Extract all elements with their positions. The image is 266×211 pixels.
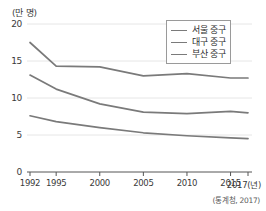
legend-line-icon: [171, 30, 187, 31]
y-tick-label: 10: [6, 93, 22, 103]
legend-label: 대구 중구: [192, 36, 225, 48]
x-tick-label: 2017(년): [227, 178, 261, 190]
y-tick-label: 5: [6, 130, 22, 140]
legend-label: 서울 중구: [192, 24, 225, 36]
y-tick-label: 0: [6, 167, 22, 177]
x-tick-label: 2005: [133, 178, 153, 188]
y-tick-label: 15: [6, 56, 22, 66]
legend-item: 대구 중구: [171, 36, 225, 48]
source-note: (통계청, 2017): [213, 194, 260, 205]
legend-line-icon: [171, 42, 187, 43]
legend-label: 부산 중구: [192, 48, 225, 60]
chart-legend: 서울 중구대구 중구부산 중구: [166, 20, 231, 64]
x-tick-marks-group: [30, 172, 248, 176]
y-tick-label: 20: [6, 19, 22, 29]
population-line-chart-figure: (만 명) 05101520 1992199520002005201020152…: [0, 0, 266, 211]
x-tick-label: 1992: [20, 178, 40, 188]
legend-line-icon: [171, 54, 187, 55]
x-tick-label: 2010: [177, 178, 197, 188]
series-line-2: [30, 75, 248, 113]
legend-item: 부산 중구: [171, 48, 225, 60]
legend-item: 서울 중구: [171, 24, 225, 36]
x-tick-label: 2000: [90, 178, 110, 188]
x-tick-label: 1995: [46, 178, 66, 188]
